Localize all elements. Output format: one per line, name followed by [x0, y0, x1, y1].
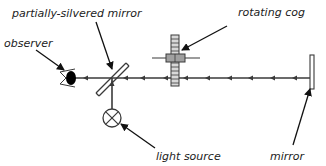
diagram: partially-silvered mirror observer rotat…	[0, 0, 326, 166]
cog-hub	[166, 54, 185, 62]
cog-leader-arrow	[182, 26, 227, 50]
far-mirror	[310, 55, 314, 89]
light-beam	[70, 76, 310, 81]
light-source-label: light source	[156, 151, 221, 162]
cog-label: rotating cog	[238, 7, 305, 18]
partial-mirror-leader-arrow	[96, 22, 112, 69]
observer-leader-arrow	[36, 50, 64, 70]
observer-eye-icon	[60, 69, 76, 87]
mirror-leader-arrow	[293, 89, 310, 145]
mirror-label: mirror	[270, 151, 304, 162]
partial-mirror-label: partially-silvered mirror	[12, 8, 142, 19]
observer-label: observer	[4, 38, 53, 49]
diagram-canvas	[0, 0, 326, 166]
light-source-leader-arrow	[121, 124, 155, 148]
light-source-icon	[103, 109, 121, 127]
